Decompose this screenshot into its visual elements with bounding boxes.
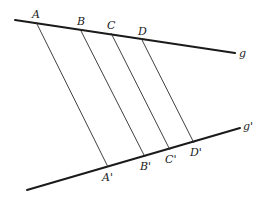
point-a-prime-label: A' — [101, 171, 113, 184]
point-b-label: B — [76, 15, 85, 28]
line-g — [15, 20, 235, 53]
parallel-projection-diagram: g g' A B C D A' B' C' D' — [0, 0, 260, 204]
point-a-label: A — [31, 8, 40, 21]
projection-line-a — [36, 22, 108, 167]
point-b-prime-label: B' — [139, 160, 151, 173]
line-g-prime — [27, 128, 240, 190]
line-g-label: g — [239, 47, 246, 60]
projection-line-c — [111, 33, 170, 150]
point-d-label: D — [137, 25, 147, 38]
point-c-label: C — [107, 19, 116, 32]
point-d-prime-label: D' — [189, 146, 202, 159]
line-g-prime-label: g' — [243, 120, 253, 133]
projection-line-b — [80, 29, 145, 157]
projection-line-d — [141, 38, 194, 143]
point-c-prime-label: C' — [165, 153, 176, 166]
